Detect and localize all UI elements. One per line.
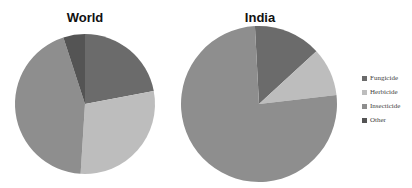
pie-slice-herbicide (81, 91, 155, 174)
legend-item-insecticide: Insecticide (362, 99, 400, 113)
legend-label: Fungicide (370, 74, 398, 82)
legend-item-herbicide: Herbicide (362, 85, 400, 99)
pie-charts (0, 0, 412, 188)
legend-label: Insecticide (370, 102, 400, 110)
india-pie (181, 26, 337, 182)
legend-swatch (362, 76, 367, 81)
world-pie (15, 34, 155, 174)
legend-swatch (362, 104, 367, 109)
legend-item-other: Other (362, 113, 400, 127)
legend-swatch (362, 118, 367, 123)
legend-label: Other (370, 116, 386, 124)
legend-item-fungicide: Fungicide (362, 71, 400, 85)
legend: Fungicide Herbicide Insecticide Other (362, 71, 400, 127)
legend-swatch (362, 90, 367, 95)
legend-label: Herbicide (370, 88, 398, 96)
